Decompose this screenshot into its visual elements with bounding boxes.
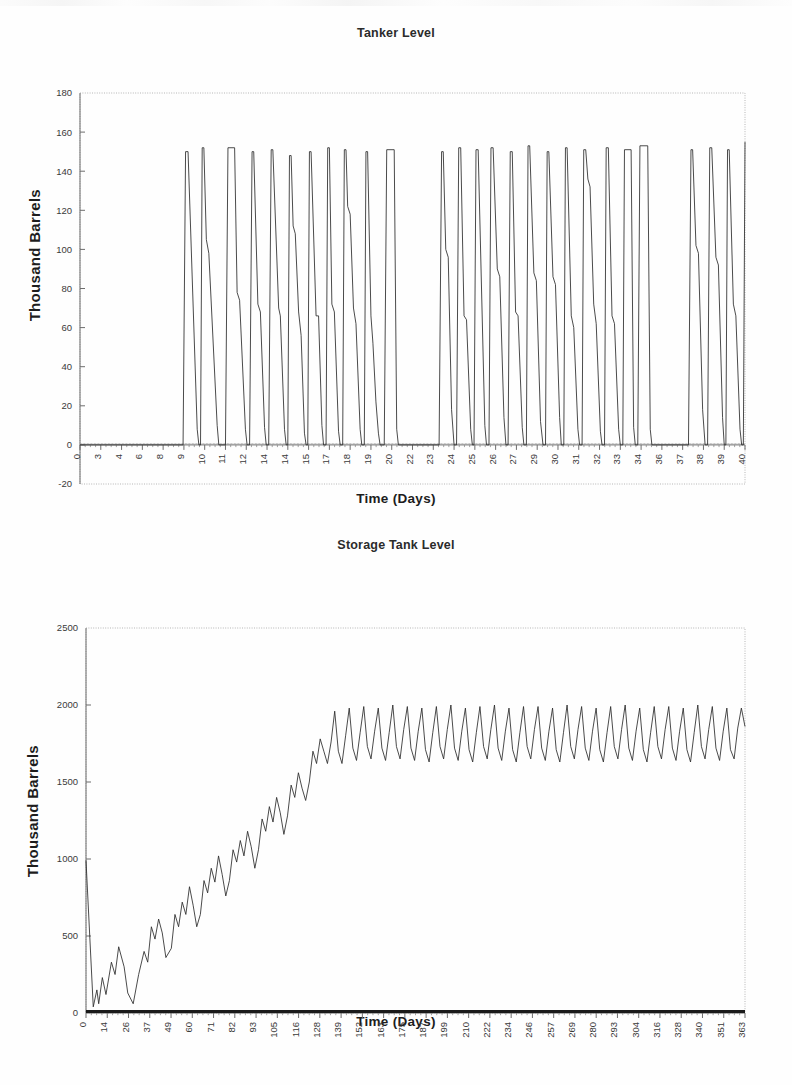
y-tick-label: 0 <box>67 439 72 450</box>
y-tick-label: 40 <box>61 361 72 372</box>
y-tick-label: 1000 <box>57 853 78 864</box>
x-tick-label: 14 <box>258 454 269 465</box>
x-tick-label: 199 <box>438 1022 449 1038</box>
x-tick-label: 19 <box>362 454 373 465</box>
x-tick-label: 32 <box>591 454 602 465</box>
x-tick-label: 49 <box>162 1022 173 1033</box>
y-tick-label: 500 <box>62 930 78 941</box>
x-tick-label: 17 <box>320 454 331 465</box>
y-tick-label: -20 <box>58 478 72 489</box>
x-tick-label: 304 <box>630 1022 641 1038</box>
chart-tanker-level: Tanker Level Thousand Barrels Time (Days… <box>0 14 792 524</box>
x-tick-label: 34 <box>632 454 643 465</box>
chart1-title: Tanker Level <box>0 26 792 40</box>
x-tick-label: 60 <box>183 1022 194 1033</box>
x-tick-label: 269 <box>566 1022 577 1038</box>
x-tick-label: 31 <box>570 454 581 465</box>
x-tick-label: 10 <box>196 454 207 465</box>
x-tick-label: 139 <box>332 1022 343 1038</box>
y-tick-label: 120 <box>56 205 72 216</box>
x-tick-label: 93 <box>247 1022 258 1033</box>
x-tick-label: 38 <box>694 454 705 465</box>
x-tick-label: 234 <box>502 1022 513 1038</box>
x-tick-label: 340 <box>693 1022 704 1038</box>
x-tick-label: 363 <box>736 1022 747 1038</box>
x-tick-label: 4 <box>113 454 124 459</box>
data-series-storage-tank-level <box>86 705 745 1007</box>
x-tick-label: 328 <box>672 1022 683 1038</box>
x-tick-label: 293 <box>608 1022 619 1038</box>
chart1-plot: -200204060801001201401601800346891011121… <box>0 52 792 492</box>
x-tick-label: 351 <box>715 1022 726 1038</box>
y-tick-label: 2500 <box>57 622 78 633</box>
y-tick-label: 60 <box>61 322 72 333</box>
x-tick-label: 316 <box>651 1022 662 1038</box>
x-tick-label: 152 <box>353 1022 364 1038</box>
x-tick-label: 33 <box>611 454 622 465</box>
x-tick-label: 0 <box>71 454 82 459</box>
x-tick-label: 163 <box>375 1022 386 1038</box>
x-tick-label: 11 <box>216 454 227 464</box>
x-tick-label: 36 <box>653 454 664 465</box>
x-tick-label: 37 <box>674 454 685 465</box>
x-tick-label: 26 <box>487 454 498 465</box>
y-tick-label: 0 <box>73 1007 78 1018</box>
x-tick-label: 222 <box>481 1022 492 1038</box>
x-tick-label: 12 <box>237 454 248 465</box>
x-tick-label: 210 <box>460 1022 471 1038</box>
chart2-title: Storage Tank Level <box>0 538 792 552</box>
x-tick-label: 25 <box>466 454 477 465</box>
x-tick-label: 37 <box>141 1022 152 1033</box>
x-tick-label: 27 <box>507 454 518 465</box>
x-tick-label: 175 <box>396 1022 407 1038</box>
x-tick-label: 18 <box>341 454 352 465</box>
x-tick-label: 8 <box>154 454 165 459</box>
x-tick-label: 6 <box>133 454 144 459</box>
x-tick-label: 15 <box>300 454 311 465</box>
x-tick-label: 187 <box>417 1022 428 1038</box>
x-tick-label: 26 <box>120 1022 131 1033</box>
plot-frame <box>80 93 745 484</box>
y-tick-label: 1500 <box>57 776 78 787</box>
x-tick-label: 24 <box>445 454 456 465</box>
y-tick-label: 100 <box>56 244 72 255</box>
y-tick-label: 20 <box>61 400 72 411</box>
x-tick-label: 39 <box>715 454 726 465</box>
y-tick-label: 180 <box>56 87 72 98</box>
data-series-tanker-level <box>80 142 745 445</box>
x-tick-label: 116 <box>290 1022 301 1037</box>
x-tick-label: 280 <box>587 1022 598 1038</box>
chart1-x-axis-label: Time (Days) <box>0 491 792 506</box>
x-tick-label: 20 <box>383 454 394 465</box>
x-tick-label: 23 <box>424 454 435 465</box>
y-tick-label: 2000 <box>57 699 78 710</box>
x-tick-label: 246 <box>523 1022 534 1038</box>
x-tick-label: 22 <box>404 454 415 465</box>
x-tick-label: 9 <box>175 454 186 459</box>
x-tick-label: 71 <box>205 1022 216 1033</box>
x-tick-label: 14 <box>279 454 290 465</box>
chart2-plot: 0500100015002000250001426374960718293105… <box>0 558 792 1008</box>
x-tick-label: 40 <box>736 454 747 465</box>
y-tick-label: 140 <box>56 166 72 177</box>
y-tick-label: 160 <box>56 127 72 138</box>
x-tick-label: 82 <box>226 1022 237 1033</box>
x-tick-label: 128 <box>311 1022 322 1038</box>
x-tick-label: 14 <box>98 1022 109 1033</box>
scan-artifact-band <box>0 0 792 6</box>
x-tick-label: 3 <box>92 454 103 459</box>
x-tick-label: 29 <box>528 454 539 465</box>
x-tick-label: 0 <box>77 1022 88 1027</box>
x-tick-label: 30 <box>549 454 560 465</box>
y-tick-label: 80 <box>61 283 72 294</box>
x-tick-label: 257 <box>545 1022 556 1038</box>
chart-storage-tank-level: Storage Tank Level Thousand Barrels Time… <box>0 530 792 1075</box>
plot-frame <box>86 628 745 1013</box>
x-tick-label: 105 <box>268 1022 279 1038</box>
